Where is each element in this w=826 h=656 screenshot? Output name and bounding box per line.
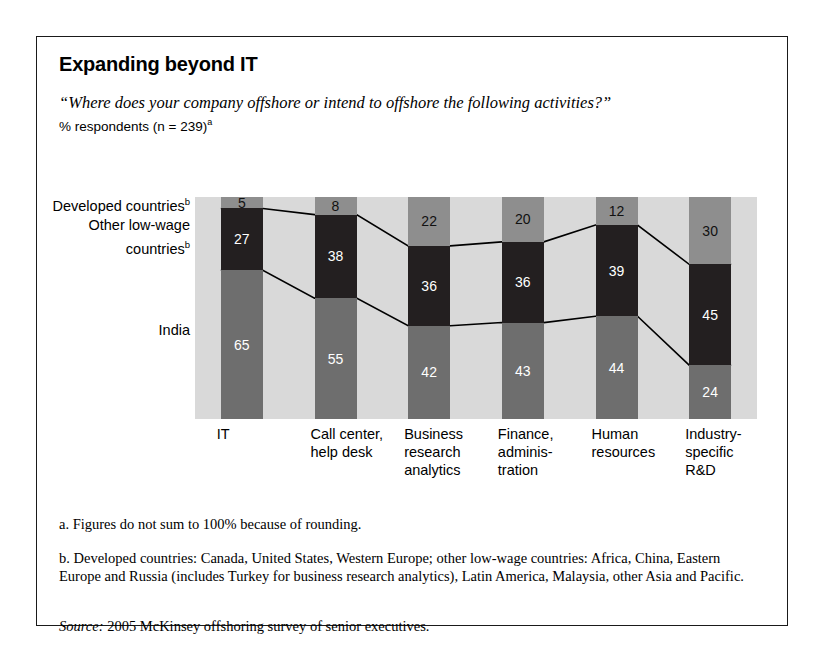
x-axis-label-line: Call center,	[311, 425, 407, 443]
x-axis-labels: ITCall center,help deskBusinessresearcha…	[195, 425, 757, 495]
bar-segment-lowwage: 38	[315, 215, 357, 299]
x-axis-label-line: adminis-	[498, 443, 594, 461]
x-axis-label-line: research	[404, 443, 500, 461]
stacked-bar-chart: 5276583855223642203643123944304524	[195, 197, 757, 419]
x-axis-label-line: specific	[685, 443, 781, 461]
bar-segment-lowwage: 27	[221, 208, 263, 270]
x-axis-label-6: Industry-specificR&D	[685, 425, 781, 479]
footnote-source: Source: 2005 McKinsey offshoring survey …	[59, 617, 765, 635]
bar-segment-india: 43	[502, 323, 544, 419]
footnote-marker-a: a	[207, 117, 212, 127]
bar-6: 304524	[689, 197, 731, 419]
x-axis-label-line: Finance,	[498, 425, 594, 443]
bar-4: 203643	[502, 197, 544, 419]
x-axis-label-5: Humanresources	[592, 425, 688, 461]
source-label: Source:	[59, 618, 104, 634]
respondent-note-text: % respondents (n = 239)	[59, 119, 207, 134]
bar-segment-developed: 22	[408, 197, 450, 246]
bar-segment-india: 65	[221, 270, 263, 419]
x-axis-label-line: Industry-	[685, 425, 781, 443]
bar-segment-india: 44	[596, 316, 638, 419]
footnote-a: a. Figures do not sum to 100% because of…	[59, 515, 765, 533]
bar-segment-india: 24	[689, 365, 731, 419]
bar-segment-lowwage: 36	[408, 246, 450, 326]
series-label-developed: Developed countriesb	[45, 192, 190, 216]
bar-segment-developed: 20	[502, 197, 544, 242]
bar-segment-developed: 5	[221, 197, 263, 208]
survey-question: “Where does your company offshore or int…	[59, 93, 611, 113]
footnote-marker-b-lowwage: b	[185, 239, 190, 250]
bar-segment-lowwage: 36	[502, 242, 544, 323]
page-title: Expanding beyond IT	[59, 53, 257, 76]
x-axis-label-3: Businessresearchanalytics	[404, 425, 500, 479]
x-axis-label-1: IT	[217, 425, 313, 443]
x-axis-label-line: IT	[217, 425, 313, 443]
bar-2: 83855	[315, 197, 357, 419]
exhibit-page: Expanding beyond IT “Where does your com…	[0, 0, 826, 656]
connector-line-developed	[221, 208, 731, 264]
series-label-india: India	[45, 322, 190, 338]
bar-segment-developed: 30	[689, 197, 731, 264]
series-label-developed-text: Developed countries	[53, 198, 185, 214]
source-text: 2005 McKinsey offshoring survey of senio…	[107, 618, 429, 634]
series-labels-top: Developed countriesb Other low-wage coun…	[45, 192, 190, 259]
footnote-b: b. Developed countries: Canada, United S…	[59, 549, 765, 585]
bar-segment-developed: 8	[315, 197, 357, 215]
x-axis-label-line: Business	[404, 425, 500, 443]
connector-lines	[195, 197, 757, 419]
connector-line-lowwage	[221, 270, 731, 365]
x-axis-label-2: Call center,help desk	[311, 425, 407, 461]
x-axis-label-line: resources	[592, 443, 688, 461]
bar-segment-lowwage: 39	[596, 225, 638, 316]
bar-3: 223642	[408, 197, 450, 419]
bar-5: 123944	[596, 197, 638, 419]
footnote-marker-b-developed: b	[185, 196, 190, 207]
bar-segment-lowwage: 45	[689, 264, 731, 365]
respondent-note: % respondents (n = 239)a	[59, 117, 212, 134]
bar-segment-developed: 12	[596, 197, 638, 225]
exhibit-frame: Expanding beyond IT “Where does your com…	[36, 36, 788, 626]
series-label-lowwage-line1: Other low-wage	[45, 216, 190, 235]
x-axis-label-4: Finance,adminis-tration	[498, 425, 594, 479]
series-label-lowwage-text: countries	[126, 241, 185, 257]
x-axis-label-line: help desk	[311, 443, 407, 461]
x-axis-label-line: Human	[592, 425, 688, 443]
bar-segment-india: 55	[315, 298, 357, 419]
x-axis-label-line: R&D	[685, 461, 781, 479]
series-label-lowwage-line2: countriesb	[45, 235, 190, 259]
x-axis-label-line: analytics	[404, 461, 500, 479]
x-axis-label-line: tration	[498, 461, 594, 479]
bar-segment-india: 42	[408, 326, 450, 419]
bar-1: 52765	[221, 197, 263, 419]
